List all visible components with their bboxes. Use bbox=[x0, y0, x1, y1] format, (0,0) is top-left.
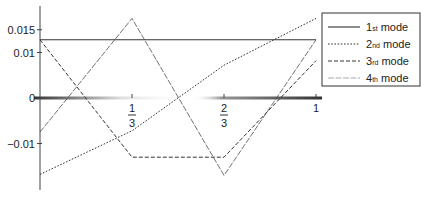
y-tick-label: 0 bbox=[29, 92, 35, 104]
y-tick-label: 0.015 bbox=[7, 24, 35, 36]
x-tick-denominator: 3 bbox=[129, 117, 135, 129]
x-tick-numerator: 2 bbox=[221, 102, 227, 114]
axes: 0.0150.010−0.0113231 bbox=[7, 6, 322, 190]
x-tick-denominator: 3 bbox=[221, 117, 227, 129]
legend: 1st mode2nd mode3rd mode4th mode bbox=[322, 13, 420, 86]
x-tick-label: 1 bbox=[313, 102, 319, 114]
mode-shapes-chart: 0.0150.010−0.0113231 1st mode2nd mode3rd… bbox=[0, 0, 421, 198]
y-tick-label: −0.01 bbox=[7, 138, 35, 150]
y-tick-label: 0.01 bbox=[14, 47, 35, 59]
x-tick-numerator: 1 bbox=[129, 102, 135, 114]
